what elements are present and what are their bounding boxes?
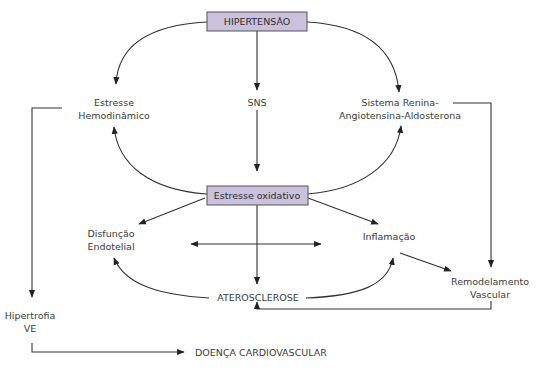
node-sraa-line1: Sistema Renina-	[361, 97, 438, 108]
edge-inflamacao-remodelamento	[400, 253, 451, 271]
edge-hipertensao-sraa	[307, 22, 399, 92]
node-doenca-label: DOENÇA CARDIOVASCULAR	[195, 347, 327, 358]
node-hipertrofia-line1: Hipertrofia	[5, 310, 56, 321]
node-aterosclerose: ATEROSCLEROSE	[217, 292, 299, 303]
node-estresse-oxidativo-label: Estresse oxidativo	[214, 190, 301, 201]
edge-hipertrofia-doenca	[32, 343, 184, 352]
node-sraa-line2: Angiotensina-Aldosterona	[339, 110, 461, 121]
node-aterosclerose-label: ATEROSCLEROSE	[217, 292, 299, 303]
node-estresse-oxidativo: Estresse oxidativo	[207, 186, 308, 205]
node-hipertrofia-line2: VE	[24, 323, 37, 334]
edge-hipertensao-estresse-hemodinamico	[116, 22, 207, 84]
edge-estresse-oxidativo-disfuncao	[139, 198, 205, 224]
node-sns: SNS	[247, 97, 266, 108]
node-sraa: Sistema Renina- Angiotensina-Aldosterona	[339, 97, 461, 121]
edge-estresse-oxidativo-estresse-hemodinamico	[114, 127, 207, 194]
edge-sraa-remodelamento	[453, 103, 491, 267]
node-hipertrofia-ve: Hipertrofia VE	[5, 310, 56, 334]
edge-aterosclerose-disfuncao	[114, 258, 209, 298]
edge-aterosclerose-inflamacao	[306, 258, 393, 298]
node-estresse-hemodinamico-line1: Estresse	[94, 97, 134, 108]
node-doenca-cardiovascular: DOENÇA CARDIOVASCULAR	[195, 347, 327, 358]
node-remodelamento-vascular: Remodelamento Vascular	[451, 276, 529, 300]
node-hipertensao: HIPERTENSÃO	[207, 12, 307, 31]
node-remodelamento-line1: Remodelamento	[451, 276, 529, 287]
node-inflamacao: Inflamação	[363, 231, 416, 242]
edge-estresse-hemodinamico-hipertrofia	[32, 108, 62, 297]
node-disfuncao-endotelial: Disfunção Endotelial	[87, 228, 134, 252]
flow-diagram: HIPERTENSÃO Estresse oxidativo Estresse …	[0, 0, 542, 370]
node-estresse-hemodinamico: Estresse Hemodinâmico	[78, 97, 150, 121]
node-remodelamento-line2: Vascular	[470, 289, 510, 300]
node-inflamacao-label: Inflamação	[363, 231, 416, 242]
node-disfuncao-line1: Disfunção	[87, 228, 134, 239]
node-estresse-hemodinamico-line2: Hemodinâmico	[78, 110, 150, 121]
node-disfuncao-line2: Endotelial	[87, 241, 134, 252]
edge-estresse-oxidativo-inflamacao	[308, 198, 378, 224]
node-hipertensao-label: HIPERTENSÃO	[224, 16, 291, 27]
node-sns-label: SNS	[247, 97, 266, 108]
edge-estresse-oxidativo-sraa	[307, 126, 401, 194]
